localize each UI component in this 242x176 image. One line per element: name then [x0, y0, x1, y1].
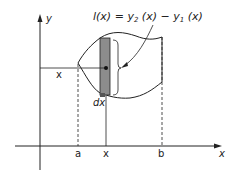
- centroid-dot: [104, 66, 108, 70]
- leader-arrow: [124, 25, 153, 66]
- region-outline: [78, 33, 162, 99]
- leader-arrowhead: [121, 62, 128, 68]
- tick-a-label: a: [75, 148, 81, 159]
- area-diagram: l(x) = y2 (x) − y1 (x) y x a x b dx x: [0, 0, 242, 176]
- axes: [15, 14, 222, 170]
- tick-b-label: b: [158, 148, 164, 159]
- x-axis-label: x: [218, 148, 225, 159]
- length-brace: [113, 40, 121, 95]
- y-axis-label: y: [45, 13, 53, 24]
- dx-label: dx: [93, 97, 105, 108]
- tick-x-label: x: [103, 148, 109, 159]
- y-axis-arrow: [38, 14, 43, 22]
- x-distance-label: x: [56, 69, 62, 80]
- formula-text: l(x) = y2 (x) − y1 (x): [93, 10, 203, 24]
